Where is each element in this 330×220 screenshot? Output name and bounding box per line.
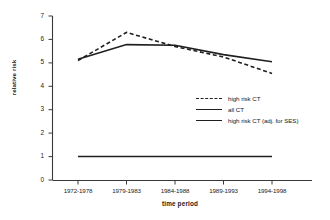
legend-label-high-risk-ct-adj-ses: high risk CT (adj. for SES) xyxy=(228,117,298,124)
legend-item-high-risk-ct: high risk CT xyxy=(196,93,298,104)
x-axis-title: time period xyxy=(55,200,305,207)
legend-swatch-solid-icon xyxy=(196,109,222,110)
legend-label-high-risk-ct: high risk CT xyxy=(228,95,260,102)
legend-item-all-ct: all CT xyxy=(196,104,298,115)
legend-swatch-dashed-icon xyxy=(196,98,222,99)
series-line-high-risk-ct xyxy=(78,32,272,73)
legend-label-all-ct: all CT xyxy=(228,106,244,113)
legend-swatch-solid-ref-icon xyxy=(196,120,222,121)
line-chart: relative risk 7 6 5 4 3 2 1 0 1972-1978 … xyxy=(0,0,330,220)
legend-item-high-risk-ct-adj-ses: high risk CT (adj. for SES) xyxy=(196,115,298,126)
legend: high risk CT all CT high risk CT (adj. f… xyxy=(196,93,298,126)
x-tick-label-4: 1994-1998 xyxy=(243,187,301,194)
